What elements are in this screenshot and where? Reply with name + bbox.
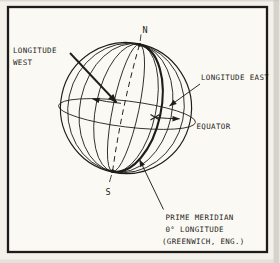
label-prime-meridian-line3: (GREENWICH, ENG.) — [162, 237, 245, 246]
label-south-pole: S — [106, 187, 111, 197]
label-longitude-east: LONGITUDE EAST — [201, 73, 269, 82]
scan-edge-top — [0, 0, 279, 1]
label-north-pole: N — [143, 25, 148, 35]
label-longitude-west-line2: WEST — [13, 58, 33, 67]
label-prime-meridian-line1: PRIME MERIDIAN — [166, 213, 234, 222]
label-equator: EQUATOR — [197, 122, 231, 131]
scan-edge-bottom — [0, 260, 279, 263]
figure-canvas: N S LONGITUDE WEST LONGITUDE EAST EQUATO… — [0, 0, 279, 263]
scan-edge-right — [274, 0, 280, 263]
label-prime-meridian-line2: 0° LONGITUDE — [166, 225, 225, 234]
longitude-globe-diagram: N S LONGITUDE WEST LONGITUDE EAST EQUATO… — [0, 0, 279, 263]
label-longitude-west-line1: LONGITUDE — [13, 46, 57, 55]
